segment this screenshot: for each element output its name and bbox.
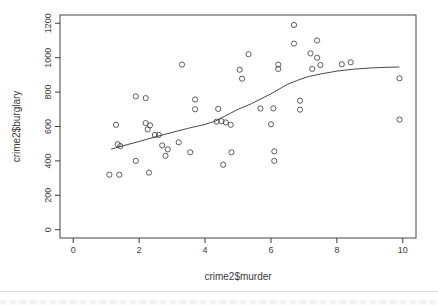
data-point [163, 153, 168, 158]
data-point [165, 147, 170, 152]
data-point [133, 158, 138, 163]
cropped-caption-remnant [0, 300, 438, 304]
data-point [228, 122, 233, 127]
data-point [246, 52, 251, 57]
data-point [145, 127, 150, 132]
data-point [318, 63, 323, 68]
data-point [107, 172, 112, 177]
data-point [272, 158, 277, 163]
y-axis-ticks: 020040060080010001200 [43, 13, 60, 232]
x-axis-label: crime2$murder [204, 271, 272, 282]
y-axis-tick-label: 200 [43, 188, 53, 203]
data-point [176, 140, 181, 145]
data-point [113, 122, 118, 127]
x-axis-ticks: 0246810 [71, 238, 408, 255]
data-point [297, 98, 302, 103]
x-axis-tick-label: 10 [398, 245, 408, 255]
data-point [229, 150, 234, 155]
plot-area [60, 15, 416, 238]
data-point [179, 62, 184, 67]
data-point [117, 172, 122, 177]
y-axis-tick-label: 1000 [43, 48, 53, 68]
x-axis-tick-label: 0 [71, 245, 76, 255]
data-point [397, 76, 402, 81]
scatter-points [107, 22, 402, 177]
data-point [315, 55, 320, 60]
bottom-divider [0, 291, 438, 292]
data-point [308, 51, 313, 56]
data-point [297, 107, 302, 112]
lowess-line [111, 67, 399, 149]
y-axis-label: crime2$burglary [11, 91, 22, 163]
y-axis-tick-label: 800 [43, 85, 53, 100]
lowess-line-layer [111, 67, 399, 149]
data-point [268, 122, 273, 127]
scatter-plot: 0246810 020040060080010001200 crime2$mur… [0, 0, 438, 305]
data-point [133, 94, 138, 99]
data-point [193, 97, 198, 102]
y-axis-tick-label: 1200 [43, 13, 53, 33]
x-axis-tick-label: 4 [203, 245, 208, 255]
data-point [143, 96, 148, 101]
data-point [310, 66, 315, 71]
data-point [160, 143, 165, 148]
data-point [188, 150, 193, 155]
data-point [237, 67, 242, 72]
x-axis-tick-label: 8 [334, 245, 339, 255]
data-point [348, 60, 353, 65]
y-axis-tick-label: 400 [43, 153, 53, 168]
y-axis-tick-label: 0 [43, 227, 53, 232]
data-point [397, 117, 402, 122]
data-point [272, 149, 277, 154]
data-point [271, 106, 276, 111]
y-axis-tick-label: 600 [43, 119, 53, 134]
data-point [216, 106, 221, 111]
data-point [239, 76, 244, 81]
r-plot-window: 0246810 020040060080010001200 crime2$mur… [0, 0, 438, 305]
data-point [258, 106, 263, 111]
data-point [339, 62, 344, 67]
data-point [291, 22, 296, 27]
x-axis-tick-label: 6 [268, 245, 273, 255]
x-axis-tick-label: 2 [137, 245, 142, 255]
data-point [291, 41, 296, 46]
data-point [221, 162, 226, 167]
data-point [193, 107, 198, 112]
data-point [315, 38, 320, 43]
data-point [146, 170, 151, 175]
